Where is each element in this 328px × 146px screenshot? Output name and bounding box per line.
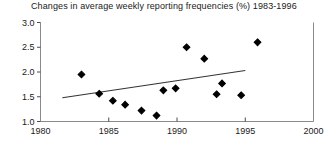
data-point [78, 71, 85, 78]
chart-container: Changes in average weekly reporting freq… [0, 0, 328, 146]
data-point [138, 107, 145, 114]
data-point [122, 101, 129, 108]
y-axis-ticks: 1.01.52.02.53.0 [22, 18, 41, 127]
y-tick-label: 2.5 [22, 42, 35, 52]
data-point [238, 92, 245, 99]
data-point [110, 97, 117, 104]
y-tick-label: 2.0 [22, 67, 35, 77]
x-axis-ticks: 19801985199019952000 [30, 118, 323, 136]
data-point [201, 55, 208, 62]
data-point [183, 44, 190, 51]
x-tick-label: 1980 [30, 126, 50, 136]
data-point [213, 91, 220, 98]
y-tick-label: 1.5 [22, 92, 35, 102]
data-point [219, 80, 226, 87]
y-tick-label: 3.0 [22, 18, 35, 28]
x-tick-label: 1985 [99, 126, 119, 136]
data-point [153, 112, 160, 119]
x-tick-label: 1995 [235, 126, 255, 136]
x-tick-label: 1990 [167, 126, 187, 136]
data-point [172, 85, 179, 92]
x-tick-label: 2000 [303, 126, 323, 136]
scatter-plot: 1.01.52.02.53.0 19801985199019952000 [0, 0, 328, 146]
data-point [160, 87, 167, 94]
data-points [78, 39, 261, 119]
data-point [254, 39, 261, 46]
